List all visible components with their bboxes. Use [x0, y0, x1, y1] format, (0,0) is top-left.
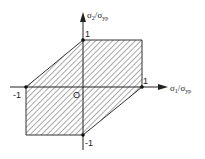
y-axis-arrow-icon	[80, 12, 86, 22]
tick-y-neg: -1	[85, 138, 93, 148]
origin-label: O	[73, 90, 80, 100]
tick-x-pos: 1	[143, 76, 148, 86]
point-x-neg	[24, 85, 28, 89]
yield-locus-diagram: 1 1 -1 -1 O σ1/σyp σ2/σyp	[0, 0, 205, 159]
tick-y-pos: 1	[85, 29, 90, 39]
x-axis-label: σ1/σyp	[170, 83, 191, 94]
point-y-neg	[81, 133, 85, 137]
x-axis-arrow-icon	[158, 84, 168, 90]
tick-x-neg: -1	[13, 90, 21, 100]
y-axis-label: σ2/σyp	[87, 10, 108, 21]
